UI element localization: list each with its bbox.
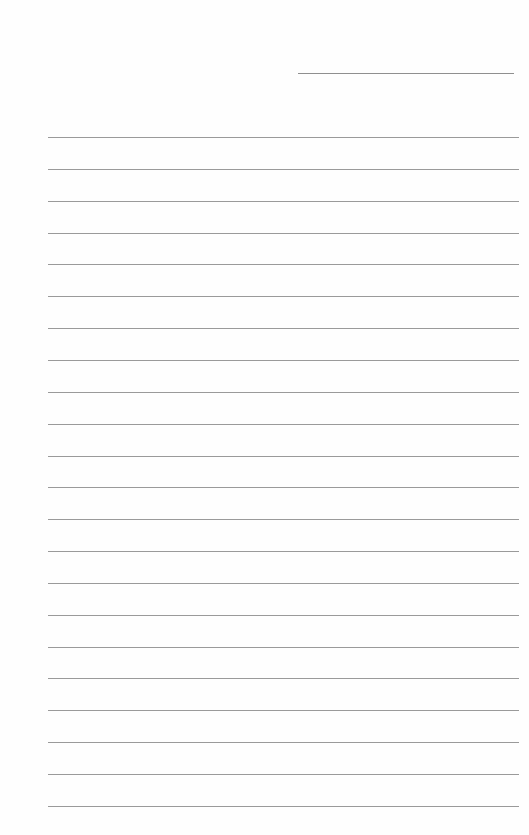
ruled-line [48, 424, 519, 425]
ruled-line [48, 169, 519, 170]
ruled-line [48, 360, 519, 361]
ruled-line [48, 742, 519, 743]
ruled-line [48, 264, 519, 265]
ruled-line [48, 487, 519, 488]
ruled-line [48, 519, 519, 520]
ruled-line [48, 233, 519, 234]
ruled-line [48, 456, 519, 457]
ruled-line [48, 583, 519, 584]
ruled-line [48, 678, 519, 679]
ruled-line [48, 774, 519, 775]
ruled-line [48, 710, 519, 711]
header-name-line [298, 73, 514, 74]
lined-paper-sheet [0, 0, 529, 835]
ruled-line [48, 201, 519, 202]
ruled-line [48, 392, 519, 393]
ruled-line [48, 615, 519, 616]
ruled-line [48, 551, 519, 552]
ruled-line [48, 328, 519, 329]
ruled-line [48, 137, 519, 138]
ruled-line [48, 296, 519, 297]
ruled-line [48, 647, 519, 648]
ruled-line [48, 806, 519, 807]
